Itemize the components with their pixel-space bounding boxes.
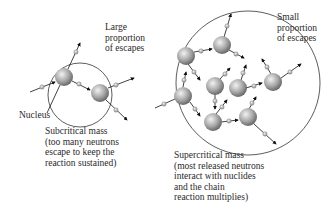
nucleus <box>229 79 247 97</box>
subcritical-caption: Subcritical mass (too many neutrons esca… <box>45 126 119 168</box>
nucleus <box>213 36 231 54</box>
nucleus <box>264 73 282 91</box>
nucleus <box>174 87 192 105</box>
nucleus <box>206 77 224 95</box>
nucleus <box>91 84 109 102</box>
nucleus <box>55 68 73 86</box>
nucleus <box>239 108 257 126</box>
supercritical-caption: Supercritical mass (most released neutro… <box>174 150 264 203</box>
nucleus-label: Nucleus <box>19 110 50 121</box>
neutron-paths <box>30 43 134 120</box>
nucleus <box>204 113 222 131</box>
nucleus <box>177 47 195 65</box>
small-escapes-label: Small proportion of escapes <box>277 12 317 44</box>
large-escapes-label: Large proportion of escapes <box>105 22 145 54</box>
